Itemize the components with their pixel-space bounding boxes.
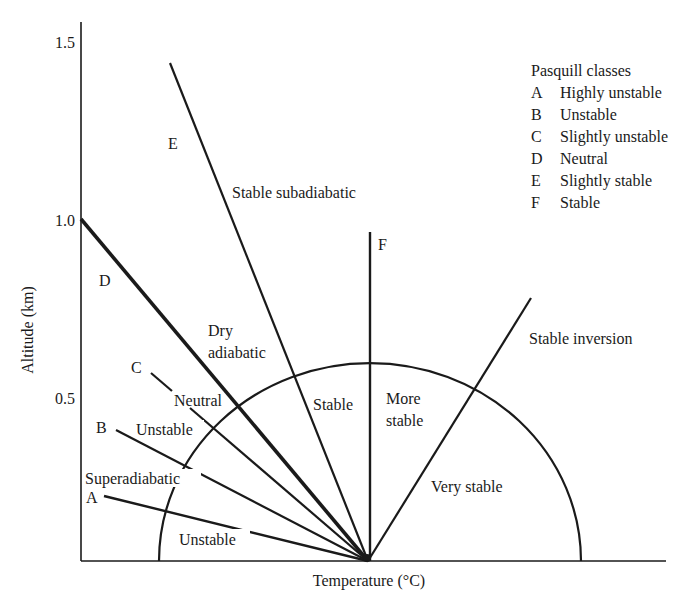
region-more-stable: stable: [386, 412, 423, 429]
legend-key: D: [531, 150, 543, 167]
region-stable-subadiabatic: Stable subadiabatic: [232, 184, 356, 201]
y-tick-1-5: 1.5: [55, 34, 75, 51]
region-dry: Dry: [208, 322, 233, 340]
region-adiabatic: adiabatic: [208, 344, 266, 361]
line-label-f: F: [378, 236, 387, 253]
region-stable: Stable: [313, 396, 353, 413]
legend-key: E: [531, 172, 541, 189]
x-axis-label: Temperature (°C): [313, 572, 425, 590]
legend-label: Stable: [560, 194, 600, 211]
legend-key: F: [531, 194, 540, 211]
legend-item-e: E Slightly stable: [531, 172, 652, 190]
legend-item-b: B Unstable: [531, 106, 617, 123]
legend-label: Slightly unstable: [560, 128, 668, 146]
line-label-d: D: [99, 272, 111, 289]
line-a-superadiabatic: [104, 496, 368, 561]
line-label-c: C: [131, 359, 142, 376]
region-more: More: [386, 390, 421, 407]
region-very-stable: Very stable: [431, 478, 503, 496]
line-c-neutral-upper: [151, 373, 172, 391]
origin-point: [363, 554, 371, 562]
region-superadiabatic: Superadiabatic: [85, 470, 180, 488]
legend-label: Slightly stable: [560, 172, 652, 190]
line-d-dry-adiabatic: [81, 219, 368, 561]
legend-item-a: A Highly unstable: [531, 84, 662, 102]
legend-item-c: C Slightly unstable: [531, 128, 668, 146]
region-neutral: Neutral: [174, 392, 223, 409]
legend-title: Pasquill classes: [531, 62, 631, 80]
region-unstable-lower: Unstable: [179, 531, 236, 548]
legend-key: C: [531, 128, 542, 145]
legend: Pasquill classes A Highly unstable B Uns…: [531, 62, 668, 211]
region-unstable-upper: Unstable: [136, 421, 193, 438]
line-label-b: B: [96, 419, 107, 436]
y-tick-0-5: 0.5: [55, 390, 75, 407]
legend-key: A: [531, 84, 543, 101]
stability-diagram: 1.5 1.0 0.5 Altitude (km) Temperature (°…: [0, 0, 700, 610]
line-label-a: A: [86, 489, 98, 506]
y-tick-1-0: 1.0: [55, 212, 75, 229]
legend-label: Unstable: [560, 106, 617, 123]
legend-item-f: F Stable: [531, 194, 600, 211]
region-stable-inversion: Stable inversion: [529, 330, 633, 347]
line-label-e: E: [168, 135, 178, 152]
legend-key: B: [531, 106, 542, 123]
y-axis-label: Altitude (km): [19, 286, 37, 374]
legend-label: Neutral: [560, 150, 609, 167]
legend-item-d: D Neutral: [531, 150, 609, 167]
line-stable-inversion: [368, 298, 531, 561]
legend-label: Highly unstable: [560, 84, 662, 102]
